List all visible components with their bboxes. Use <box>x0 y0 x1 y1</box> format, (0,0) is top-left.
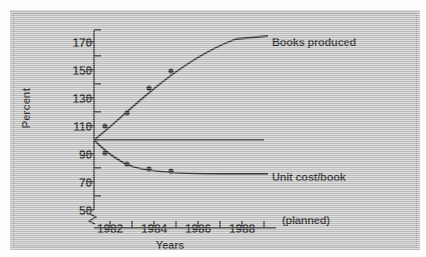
marker-books-1985-5 <box>168 68 173 73</box>
scanned-figure-panel: Percent 170 150 130 110 90 70 50 1982 19… <box>10 10 420 250</box>
marker-books-1984-5 <box>146 85 151 90</box>
series-curve-books-produced <box>94 36 268 140</box>
marker-books-1982-5 <box>102 123 107 128</box>
y-axis-break-symbol <box>89 214 96 224</box>
marker-unitcost-1985-5 <box>168 168 173 173</box>
marker-unitcost-1983-5 <box>124 161 129 166</box>
marker-unitcost-1982-5 <box>102 150 107 155</box>
plot-area <box>10 10 420 250</box>
series-curve-unit-cost-book <box>94 140 268 174</box>
marker-books-1983-5 <box>124 110 129 115</box>
data-point-markers <box>102 68 173 173</box>
marker-unitcost-1984-5 <box>146 166 151 171</box>
figure-root: Percent 170 150 130 110 90 70 50 1982 19… <box>0 0 426 257</box>
